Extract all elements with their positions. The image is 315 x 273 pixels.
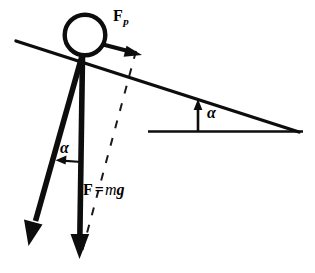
weight-mass-symbol: m	[105, 181, 117, 198]
force-parallel-subscript: p	[123, 15, 129, 27]
force-parallel-label: Fp	[113, 8, 129, 27]
perpendicular-dashed-line	[80, 51, 136, 259]
weight-equals-sign: =	[95, 181, 104, 198]
weight-force-label: F=mg	[83, 182, 124, 198]
force-parallel-symbol: F	[113, 7, 123, 24]
weight-gravity-symbol: g	[116, 181, 124, 198]
incline-angle-indicator	[194, 99, 203, 131]
incline-surface-line	[16, 41, 299, 132]
weight-force-symbol: F	[83, 181, 93, 198]
diagram-canvas	[0, 0, 315, 273]
physics-diagram-figure: Fp α α F=mg	[0, 0, 315, 273]
ball-circle	[65, 15, 106, 56]
weight-angle-indicator	[56, 156, 82, 165]
force-parallel-vector	[103, 45, 142, 57]
weight-angle-label: α	[60, 140, 69, 156]
incline-angle-label: α	[207, 105, 216, 121]
perpendicular-component-vector	[24, 56, 82, 246]
